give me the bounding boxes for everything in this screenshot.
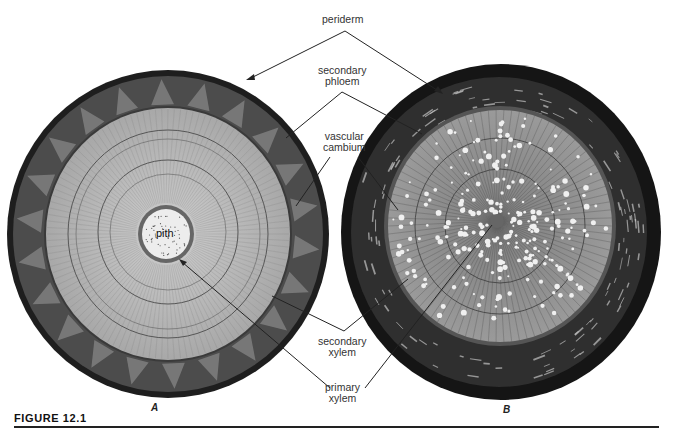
vessel — [483, 151, 486, 154]
vessel — [466, 189, 469, 192]
vessel — [502, 261, 505, 264]
vessel — [532, 237, 536, 241]
vessel — [529, 254, 533, 258]
vessel — [392, 218, 394, 220]
vessel — [464, 282, 468, 286]
vessel — [476, 211, 481, 216]
pith-speck — [160, 223, 161, 224]
vessel — [497, 266, 503, 272]
vessel — [491, 271, 494, 274]
pith-speck — [179, 247, 180, 248]
vessel — [459, 154, 461, 156]
vessel — [562, 178, 567, 183]
vessel — [410, 221, 414, 225]
vessel — [454, 131, 457, 134]
pith-speck — [154, 216, 155, 217]
vessel — [551, 259, 554, 262]
vessel — [508, 137, 513, 142]
vessel — [443, 225, 447, 229]
vessel — [445, 235, 449, 239]
pith-speck — [172, 241, 173, 242]
vessel — [587, 234, 589, 236]
vessel — [523, 211, 526, 214]
vessel — [452, 285, 456, 289]
pith-speck — [164, 244, 165, 245]
vessel — [424, 203, 428, 207]
vessel — [522, 239, 526, 243]
pith-speck — [146, 229, 147, 230]
vessel — [578, 285, 583, 290]
vessel — [558, 209, 560, 211]
phloem-streak — [379, 240, 380, 245]
vessel — [558, 293, 563, 298]
pith-speck — [184, 244, 185, 245]
vessel — [494, 177, 500, 183]
vessel — [571, 247, 574, 250]
vessel — [496, 294, 502, 300]
vessel — [399, 224, 404, 229]
vessel — [499, 122, 504, 127]
vessel — [470, 211, 475, 216]
vessel — [462, 246, 467, 251]
vessel — [533, 195, 536, 198]
vessel — [499, 242, 502, 245]
vessel — [530, 209, 535, 214]
pith-speck — [184, 224, 185, 225]
vessel — [570, 227, 572, 229]
vessel — [447, 129, 452, 134]
vessel — [591, 220, 596, 225]
vessel — [480, 227, 482, 229]
vessel — [574, 220, 577, 223]
panel-label-b: B — [503, 404, 510, 415]
vessel — [453, 242, 457, 246]
vessel — [530, 230, 533, 233]
vessel — [508, 150, 511, 153]
vessel — [409, 181, 411, 183]
vessel — [486, 243, 491, 248]
vessel — [437, 313, 442, 318]
vessel — [472, 159, 474, 161]
vessel — [583, 229, 587, 233]
vessel — [473, 141, 475, 143]
vessel — [537, 187, 539, 189]
phloem-streak — [376, 236, 377, 244]
vessel — [462, 207, 465, 210]
vessel — [464, 225, 469, 230]
vessel — [412, 269, 416, 273]
vessel — [436, 210, 442, 216]
vessel — [507, 291, 511, 295]
label-vascular-cambium: vascular cambium — [323, 131, 366, 153]
pith-speck — [158, 216, 159, 217]
vessel — [472, 230, 476, 234]
pith-speck — [166, 216, 167, 217]
vessel — [583, 185, 589, 191]
label-primary-xylem: primary xylem — [325, 382, 360, 404]
vessel — [526, 263, 529, 266]
vessel — [478, 253, 483, 258]
vessel — [456, 249, 461, 254]
vessel — [435, 235, 440, 240]
vessel — [594, 205, 597, 208]
arrowhead-periderm-a — [246, 74, 255, 80]
vessel — [506, 200, 508, 202]
vessel — [533, 247, 537, 251]
vessel — [476, 181, 481, 186]
vessel — [543, 262, 547, 266]
vessel — [557, 224, 561, 228]
pith-speck — [179, 217, 180, 218]
vessel — [492, 181, 494, 183]
vessel — [486, 153, 492, 159]
vessel — [534, 228, 539, 233]
pith-speck — [161, 216, 162, 217]
pith-speck — [158, 244, 159, 245]
vessel — [495, 305, 497, 307]
vessel — [584, 204, 590, 210]
vessel — [551, 188, 556, 193]
vessel — [539, 280, 543, 284]
vessel — [517, 220, 522, 225]
vessel — [505, 133, 510, 138]
pith-speck — [163, 253, 164, 254]
pith-speck — [168, 247, 169, 248]
pith-speck — [153, 230, 154, 231]
vessel — [531, 215, 537, 221]
